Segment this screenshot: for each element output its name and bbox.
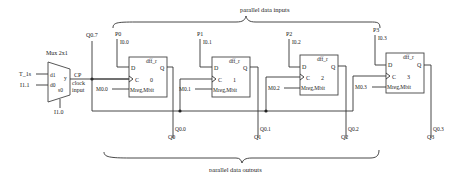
q2-label: Q2 [341, 134, 348, 140]
dff-0-name: dff_r [146, 58, 157, 64]
dff-3-index: 3 [407, 74, 410, 80]
dff-3-mreg: Mreg,Mbit [387, 84, 411, 90]
dff-1-index: 1 [233, 77, 236, 83]
dff-2-name: dff_r [317, 56, 328, 62]
p3-label: P3 [373, 27, 379, 33]
mux-input-i11: I1.1 [20, 82, 30, 88]
mux-2x1: Mux 2x1 d1 d0 s0 y T_1s I1.1 I1.0 [19, 50, 70, 115]
q0-label: Q0 [168, 134, 175, 140]
dff-3-name: dff_r [403, 54, 414, 60]
p0-label: P0 [115, 31, 121, 37]
dff-1-c: C [218, 77, 222, 83]
parallel-outputs-title: parallel data outputs [209, 166, 262, 172]
m03-label: M0.3 [355, 84, 367, 90]
i02-label: I0.2 [292, 39, 301, 45]
dff-0-q: Q [160, 65, 165, 71]
mux-select-i10: I1.0 [54, 109, 64, 115]
dff-2-mreg: Mreg,Mbit [301, 85, 325, 91]
dff-3-q: Q [417, 62, 422, 68]
mux-pin-y: y [64, 75, 67, 81]
m01-label: M0.1 [179, 86, 191, 92]
q3-label: Q3 [427, 134, 434, 140]
dff-2-c: C [306, 75, 310, 81]
dff-0-c: C [135, 77, 139, 83]
i01-label: I0.1 [203, 39, 212, 45]
parallel-inputs-title: parallel data inputs [240, 6, 290, 13]
q01-label: Q0.1 [260, 126, 271, 132]
m02-label: M0.2 [268, 85, 280, 91]
parallel-register-diagram: parallel data inputs parallel data outpu… [0, 0, 467, 172]
mux-pin-s0: s0 [58, 87, 63, 93]
feedback-q07: Q0.7 [86, 32, 98, 38]
dff-2: P2 I0.2 dff_r D Q C 2 Mreg,Mbit M0.2 Q0.… [264, 31, 359, 140]
mux-pin-d1: d1 [50, 72, 56, 78]
dff-2-q: Q [331, 64, 336, 70]
dff-1-name: dff_r [229, 58, 240, 64]
m00-label: M0.0 [96, 86, 108, 92]
clock-label-cp: CP [74, 72, 82, 78]
dff-2-index: 2 [321, 75, 324, 81]
dff-1-mreg: Mreg,Mbit [213, 87, 237, 93]
q02-label: Q0.2 [348, 126, 359, 132]
dff-0: P0 I0.0 dff_r D Q C 0 Mreg,Mbit M0.0 Q0.… [96, 31, 186, 140]
i00-label: I0.0 [120, 39, 129, 45]
dff-3-c: C [392, 74, 396, 80]
inputs-brace [113, 16, 380, 28]
dff-0-mreg: Mreg,Mbit [130, 87, 154, 93]
mux-pin-d0: d0 [50, 82, 56, 88]
clock-label-clock: clock [72, 80, 85, 86]
p1-label: P1 [197, 31, 203, 37]
outputs-brace [104, 150, 379, 163]
dff-1-d: D [214, 65, 219, 71]
p2-label: P2 [286, 31, 292, 37]
q03-label: Q0.3 [433, 126, 444, 132]
mux-label: Mux 2x1 [46, 50, 68, 56]
dff-2-d: D [302, 64, 307, 70]
dff-0-d: D [131, 65, 136, 71]
q1-label: Q1 [254, 134, 261, 140]
dff-1: P1 I0.1 dff_r D Q C 1 Mreg,Mbit M0.1 Q0.… [178, 31, 271, 140]
dff-1-q: Q [243, 65, 248, 71]
i03-label: I0.3 [378, 35, 387, 41]
dff-3: P3 I0.3 dff_r D Q C 3 Mreg,Mbit M0.3 Q0.… [353, 27, 444, 140]
dff-3-d: D [388, 62, 393, 68]
dff-0-index: 0 [150, 77, 153, 83]
clock-label-input: input [72, 87, 85, 93]
q00-label: Q0.0 [175, 126, 186, 132]
mux-input-t1s: T_1s [19, 71, 32, 77]
